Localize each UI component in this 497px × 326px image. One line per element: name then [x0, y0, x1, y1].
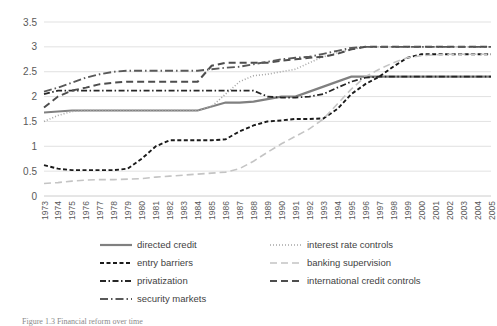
y-tick-label: 2.5 — [23, 66, 37, 77]
x-tick-label: 1991 — [291, 201, 301, 220]
x-tick-label: 1997 — [375, 201, 385, 220]
chart-container: 00.511.522.533.5 19731974197519761977197… — [0, 0, 497, 326]
x-tick-label: 1984 — [193, 201, 203, 220]
x-tick-label: 1975 — [67, 201, 77, 220]
y-tick-label: 2 — [31, 91, 37, 102]
x-tick-label: 1987 — [235, 201, 245, 220]
x-tick-label: 1989 — [263, 201, 273, 220]
x-tick-label: 1986 — [221, 201, 231, 220]
x-tick-label: 1982 — [165, 201, 175, 220]
x-tick-label: 1999 — [403, 201, 413, 220]
line-chart: 00.511.522.533.5 19731974197519761977197… — [0, 0, 497, 326]
series-line-security-markets — [44, 47, 491, 92]
figure-caption: Figure 1.3 Financial reform over time — [22, 317, 143, 326]
legend-label-privatization: privatization — [137, 275, 188, 286]
x-tick-label: 1998 — [389, 201, 399, 220]
y-tick-label: 3 — [31, 41, 37, 52]
x-tick-label: 1980 — [137, 201, 147, 220]
data-series-group — [44, 47, 491, 184]
x-tick-label: 2005 — [487, 201, 497, 220]
x-tick-label: 1996 — [361, 201, 371, 220]
x-tick-label: 1993 — [319, 201, 329, 220]
x-tick-label: 1994 — [333, 201, 343, 220]
y-tick-label: 0.5 — [23, 166, 37, 177]
x-tick-label: 1985 — [207, 201, 217, 220]
chart-legend: directed creditinterest rate controlsent… — [100, 239, 421, 304]
legend-label-entry-barriers: entry barriers — [137, 257, 193, 268]
caption-label: Figure 1.3 Financial reform over time — [22, 317, 143, 326]
y-tick-label: 3.5 — [23, 17, 37, 28]
y-axis-tick-labels: 00.511.522.533.5 — [23, 17, 37, 202]
x-tick-label: 1974 — [53, 201, 63, 220]
x-tick-label: 1995 — [347, 201, 357, 220]
x-tick-label: 1981 — [151, 201, 161, 220]
x-tick-label: 1983 — [179, 201, 189, 220]
y-tick-label: 0 — [31, 191, 37, 202]
x-tick-label: 2003 — [459, 201, 469, 220]
legend-label-international-credit-controls: international credit controls — [307, 275, 421, 286]
x-tick-label: 1990 — [277, 201, 287, 220]
x-tick-label: 2004 — [473, 201, 483, 220]
legend-label-security-markets: security markets — [137, 293, 206, 304]
x-tick-label: 1976 — [81, 201, 91, 220]
y-tick-label: 1.5 — [23, 116, 37, 127]
x-tick-label: 1977 — [95, 201, 105, 220]
legend-label-directed-credit: directed credit — [137, 239, 197, 250]
x-tick-label: 1992 — [305, 201, 315, 220]
series-line-privatization — [44, 77, 491, 98]
series-line-banking-supervision — [44, 54, 491, 183]
x-tick-label: 2002 — [445, 201, 455, 220]
x-tick-label: 1988 — [249, 201, 259, 220]
x-tick-label: 1978 — [109, 201, 119, 220]
x-tick-label: 2001 — [431, 201, 441, 220]
x-tick-label: 1979 — [123, 201, 133, 220]
x-axis-tick-labels: 1973197419751976197719781979198019811982… — [40, 201, 497, 220]
y-tick-label: 1 — [31, 141, 37, 152]
legend-label-banking-supervision: banking supervision — [307, 257, 391, 268]
x-tick-label: 2000 — [417, 201, 427, 220]
x-tick-label: 1973 — [40, 201, 50, 220]
legend-label-interest-rate-controls: interest rate controls — [307, 239, 393, 250]
